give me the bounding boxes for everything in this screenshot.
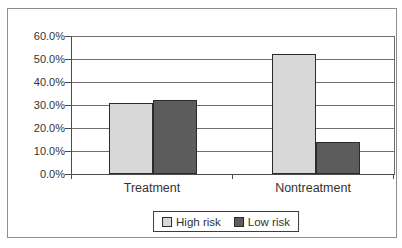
y-axis-label-40: 40.0% [18,75,65,89]
gridline-60pct [72,36,394,37]
y-tick [65,105,71,106]
y-tick [65,128,71,129]
bar-treatment-high-risk [109,103,153,174]
low-risk-swatch-icon [234,217,244,227]
y-tick [65,36,71,37]
x-tick [232,174,233,179]
legend: High risk Low risk [153,211,299,232]
legend-label-low-risk: Low risk [248,216,290,228]
gridline-40pct [72,82,394,83]
bar-nontreatment-low-risk [316,142,360,174]
category-label-nontreatment: Nontreatment [253,181,373,196]
plot-area [71,36,395,175]
chart-frame: 60.0% 50.0% 40.0% 30.0% 20.0% 10.0% 0.0%… [7,8,397,238]
legend-item-high-risk: High risk [162,216,221,228]
x-tick [393,174,394,179]
bar-nontreatment-high-risk [272,54,316,174]
x-tick [71,174,72,179]
y-axis-label-20: 20.0% [18,121,65,135]
y-tick [65,59,71,60]
y-axis-label-60: 60.0% [18,29,65,43]
y-tick [65,151,71,152]
y-axis-label-30: 30.0% [18,98,65,112]
y-axis-label-10: 10.0% [18,144,65,158]
y-axis-label-50: 50.0% [18,52,65,66]
bar-chart-figure: 60.0% 50.0% 40.0% 30.0% 20.0% 10.0% 0.0%… [0,0,402,248]
legend-item-low-risk: Low risk [234,216,290,228]
y-axis-label-0: 0.0% [18,167,65,181]
category-label-treatment: Treatment [102,181,202,196]
high-risk-swatch-icon [162,217,172,227]
legend-label-high-risk: High risk [176,216,221,228]
y-tick [65,82,71,83]
bar-treatment-low-risk [153,100,197,174]
gridline-50pct [72,59,394,60]
